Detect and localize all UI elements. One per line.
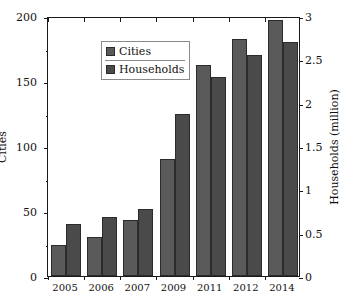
y-tick-right — [299, 18, 303, 19]
y-tick-right — [299, 278, 303, 279]
legend-item-households: Households — [105, 60, 185, 77]
x-axis-tick-label: 2012 — [233, 282, 258, 293]
y-tick-right — [299, 148, 303, 149]
bar-households — [138, 209, 153, 276]
legend-swatch-households-icon — [106, 65, 115, 74]
y-tick-right — [299, 61, 303, 62]
legend-item-cities: Cities — [105, 44, 185, 59]
y-axis-left-tick-label: 0 — [30, 271, 37, 284]
bar-group — [268, 20, 298, 276]
x-axis-tick-label: 2009 — [161, 282, 186, 293]
y-axis-left-tick-label: 50 — [23, 206, 37, 219]
bar-cities — [160, 159, 175, 276]
chart-legend: Cities Households — [101, 41, 190, 80]
legend-label-households: Households — [119, 63, 184, 76]
y-axis-left-tick-label: 150 — [16, 76, 37, 89]
bar-cities — [196, 65, 211, 276]
bar-cities — [123, 220, 138, 276]
y-axis-left-tick-label: 100 — [16, 141, 37, 154]
y-axis-right-title: Households (million) — [328, 89, 341, 205]
x-tick — [84, 276, 85, 280]
x-axis-tick-label: 2011 — [197, 282, 222, 293]
y-axis-left-title: Cities — [0, 131, 9, 163]
bar-households — [175, 114, 190, 276]
bar-chart: Cities Households (million) Cities House… — [0, 0, 342, 308]
y-axis-right-tick-label: 2 — [305, 97, 312, 110]
legend-swatch-cities-icon — [106, 47, 115, 56]
bar-cities — [268, 20, 283, 276]
plot-area: Cities Households — [47, 17, 300, 277]
bar-households — [247, 55, 262, 276]
bar-group — [196, 65, 226, 276]
x-axis-tick-label: 2007 — [125, 282, 150, 293]
bar-households — [66, 224, 81, 276]
y-axis-right-tick-label: 2.5 — [305, 54, 323, 67]
y-tick-right — [299, 235, 303, 236]
bar-cities — [87, 237, 102, 276]
legend-label-cities: Cities — [119, 45, 151, 58]
bar-households — [211, 77, 226, 276]
y-axis-right-tick-label: 0.5 — [305, 227, 323, 240]
bar-households — [283, 42, 298, 276]
x-axis-tick-label: 2006 — [88, 282, 113, 293]
bar-group — [232, 39, 262, 276]
bar-group — [160, 114, 190, 276]
y-axis-right-tick-label: 1 — [305, 184, 312, 197]
y-axis-right-tick-label: 3 — [305, 11, 312, 24]
y-axis-right-tick-label: 1.5 — [305, 141, 323, 154]
bar-group — [87, 217, 117, 276]
x-tick — [120, 276, 121, 280]
x-tick — [229, 276, 230, 280]
bar-cities — [51, 245, 66, 276]
y-axis-right-tick-label: 0 — [305, 271, 312, 284]
x-tick — [156, 276, 157, 280]
y-tick-right — [299, 191, 303, 192]
y-tick-right — [299, 105, 303, 106]
bar-group — [51, 224, 81, 276]
bar-group — [123, 209, 153, 276]
x-axis-tick-label: 2005 — [52, 282, 77, 293]
bar-households — [102, 217, 117, 276]
y-axis-left-tick-label: 200 — [16, 11, 37, 24]
x-axis-tick-label: 2014 — [269, 282, 294, 293]
x-tick — [265, 276, 266, 280]
bar-cities — [232, 39, 247, 276]
x-tick — [193, 276, 194, 280]
x-tick — [48, 276, 49, 280]
